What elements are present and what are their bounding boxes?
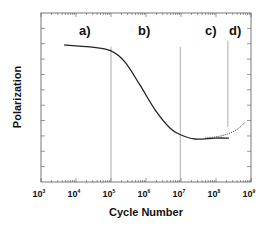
y-axis-title: Polarization bbox=[11, 66, 23, 129]
x-tick-label: 103 bbox=[33, 188, 46, 199]
region-label: c) bbox=[205, 23, 217, 38]
region-label: d) bbox=[229, 23, 241, 38]
x-tick-labels: 103104105106107108109 bbox=[33, 188, 256, 199]
polarization-recovery-curve bbox=[205, 122, 245, 138]
y-axis-ticks bbox=[41, 28, 251, 166]
x-axis-ticks bbox=[41, 13, 251, 182]
x-tick-label: 107 bbox=[173, 188, 186, 199]
polarization-curve bbox=[64, 45, 229, 139]
region-label: a) bbox=[79, 23, 91, 38]
x-tick-label: 108 bbox=[208, 188, 221, 199]
region-label: b) bbox=[138, 23, 150, 38]
region-labels: a)b)c)d) bbox=[79, 23, 241, 38]
x-tick-label: 104 bbox=[68, 188, 81, 199]
x-tick-label: 109 bbox=[243, 188, 256, 199]
region-dividers bbox=[111, 41, 228, 182]
x-axis-title: Cycle Number bbox=[109, 206, 184, 218]
polarization-chart: a)b)c)d) 103104105106107108109 Cycle Num… bbox=[0, 0, 274, 226]
plot-frame bbox=[41, 13, 251, 182]
x-tick-label: 106 bbox=[138, 188, 151, 199]
x-tick-label: 105 bbox=[103, 188, 116, 199]
